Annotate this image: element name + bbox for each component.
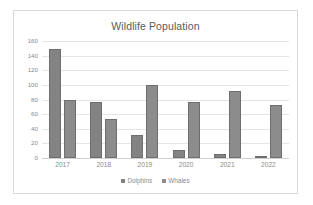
- bar-whales-2019[interactable]: [146, 85, 158, 158]
- bar-group: [83, 41, 124, 158]
- legend-label: Dolphins: [127, 177, 152, 184]
- bar-group: [207, 41, 248, 158]
- y-axis-tick: 140: [28, 53, 38, 59]
- x-axis-tick: 2018: [83, 161, 124, 168]
- bar-group: [166, 41, 207, 158]
- y-axis-tick: 0: [35, 155, 38, 161]
- x-axis-tick-labels: 201720182019202020212022: [42, 161, 289, 168]
- chart-legend: DolphinsWhales: [14, 177, 297, 184]
- bar-dolphins-2022[interactable]: [255, 156, 267, 158]
- x-axis-tick: 2017: [42, 161, 83, 168]
- bar-dolphins-2017[interactable]: [49, 49, 61, 158]
- gridline: [42, 158, 289, 159]
- bar-whales-2018[interactable]: [105, 119, 117, 158]
- chart-title: Wildlife Population: [14, 20, 297, 32]
- x-axis-tick: 2019: [124, 161, 165, 168]
- x-axis-tick: 2021: [207, 161, 248, 168]
- legend-label: Whales: [168, 177, 189, 184]
- bar-group: [248, 41, 289, 158]
- y-axis-tick: 20: [31, 140, 38, 146]
- bar-whales-2020[interactable]: [188, 102, 200, 158]
- bar-whales-2021[interactable]: [229, 91, 241, 158]
- x-axis-tick: 2020: [166, 161, 207, 168]
- y-axis-tick: 160: [28, 38, 38, 44]
- y-axis-tick: 120: [28, 67, 38, 73]
- bar-whales-2017[interactable]: [64, 100, 76, 159]
- bar-group: [42, 41, 83, 158]
- legend-swatch-icon: [121, 179, 125, 183]
- legend-item-dolphins[interactable]: Dolphins: [121, 177, 152, 184]
- bars-layer: [42, 41, 289, 158]
- chart-container: Wildlife Population 02040608010012014016…: [13, 10, 298, 194]
- bar-dolphins-2020[interactable]: [173, 150, 185, 158]
- y-axis-tick: 40: [31, 126, 38, 132]
- y-axis-tick: 60: [31, 111, 38, 117]
- plot-area: 020406080100120140160: [42, 41, 289, 158]
- bar-whales-2022[interactable]: [270, 105, 282, 158]
- bar-dolphins-2019[interactable]: [131, 135, 143, 158]
- legend-swatch-icon: [162, 179, 166, 183]
- x-axis-tick: 2022: [248, 161, 289, 168]
- legend-item-whales[interactable]: Whales: [162, 177, 189, 184]
- y-axis-tick: 80: [31, 96, 38, 102]
- bar-dolphins-2021[interactable]: [214, 154, 226, 158]
- bar-group: [124, 41, 165, 158]
- y-axis-tick: 100: [28, 82, 38, 88]
- bar-dolphins-2018[interactable]: [90, 102, 102, 158]
